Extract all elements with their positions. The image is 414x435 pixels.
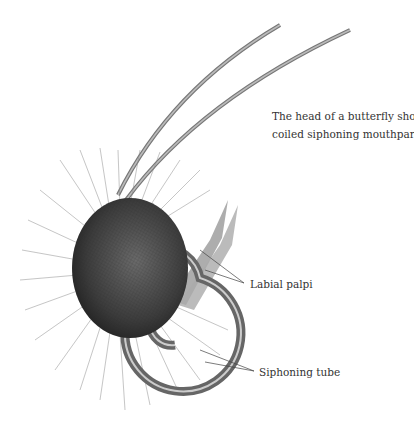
butterfly-head-illustration [0,0,414,435]
figure-caption: The head of a butterfly showing the coil… [272,107,414,143]
label-siphoning-tube: Siphoning tube [259,366,340,378]
compound-eye [72,198,188,338]
caption-line-1: The head of a butterfly showing the [272,107,414,125]
label-labial-palpi: Labial palpi [250,278,313,290]
caption-line-2: coiled siphoning mouthparts [272,125,414,143]
